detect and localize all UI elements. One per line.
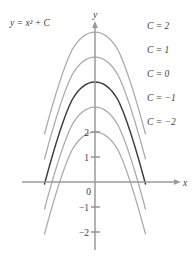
y-tick-label-2: 2	[84, 128, 89, 138]
y-tick-label-minus-2: −2	[79, 228, 89, 238]
x-axis-arrow-icon	[174, 179, 181, 185]
curve-label-c-1: C = 1	[147, 45, 169, 55]
curve-label-c-0: C = 0	[147, 69, 169, 79]
curve-label-c-2: C = 2	[147, 21, 169, 31]
y-axis-arrow-icon	[92, 21, 98, 28]
parabola-family-figure: 2 1 0 −1 −2 y x C = 2 C = 1 C = 0 C = −1…	[0, 0, 193, 260]
figure-canvas: 2 1 0 −1 −2 y x C = 2 C = 1 C = 0 C = −1…	[0, 0, 193, 260]
equation-annotation: y = x² + C	[9, 18, 51, 28]
y-tick-label-0: 0	[86, 187, 91, 197]
y-tick-label-1: 1	[84, 153, 89, 163]
curve-label-c-minus-1: C = −1	[147, 93, 176, 103]
x-axis-label: x	[182, 178, 188, 188]
y-tick-label-minus-1: −1	[79, 203, 89, 213]
curve-label-c-minus-2: C = −2	[147, 117, 176, 127]
y-axis-label: y	[92, 10, 98, 20]
